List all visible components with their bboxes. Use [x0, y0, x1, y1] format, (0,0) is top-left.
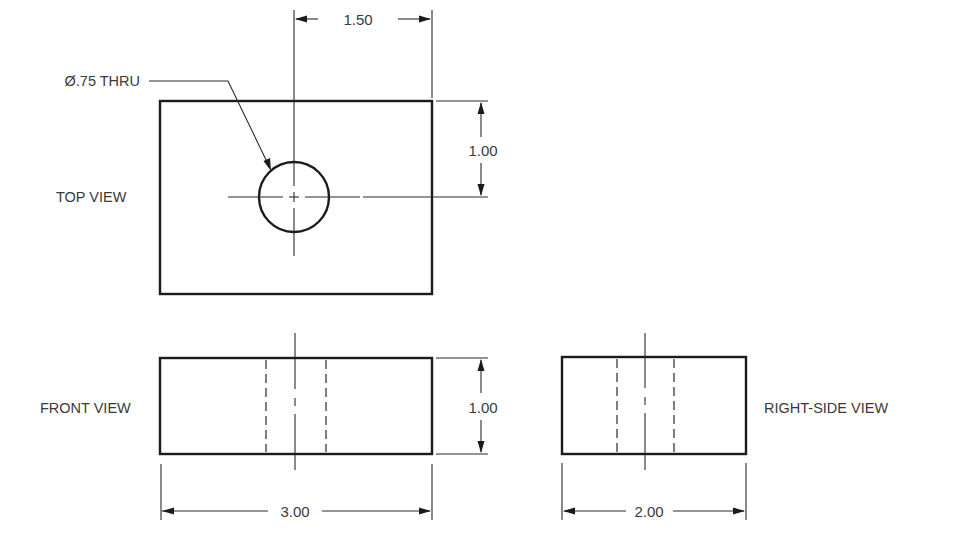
dimension-text-3-00: 3.00 [280, 503, 309, 520]
dimension-depth: 2.00 [563, 503, 745, 520]
leader-line [149, 81, 269, 166]
dimension-hole-location-x: 1.50 [295, 11, 431, 28]
arrowhead-left [295, 16, 307, 23]
front-view [160, 333, 488, 520]
dimension-text-1-50: 1.50 [343, 11, 372, 28]
right-side-view-label: RIGHT-SIDE VIEW [764, 400, 888, 416]
arrowhead-left [563, 508, 575, 515]
dimension-width: 3.00 [162, 503, 431, 520]
top-view-center-lines [228, 10, 360, 256]
arrowhead-down [478, 184, 485, 196]
arrowhead-right [419, 16, 431, 23]
top-view [160, 10, 488, 294]
arrowhead-down [478, 441, 485, 453]
hole-callout: Ø.75 THRU [65, 73, 271, 171]
orthographic-drawing: 1.50 1.00 Ø.75 THRU TOP VIEW 1.00 [0, 0, 953, 554]
right-side-view-outline [562, 357, 746, 454]
arrowhead-up [478, 359, 485, 371]
dimension-height: 1.00 [468, 359, 497, 453]
arrowhead-right [733, 508, 745, 515]
hole-callout-text: Ø.75 THRU [65, 73, 140, 89]
arrowhead-up [478, 102, 485, 114]
front-view-label: FRONT VIEW [40, 400, 131, 416]
right-side-view [562, 333, 746, 520]
dimension-text-1-00-top: 1.00 [468, 142, 497, 159]
dimension-hole-location-y: 1.00 [468, 102, 497, 196]
dimension-text-2-00: 2.00 [634, 503, 663, 520]
leader-arrowhead [264, 158, 272, 171]
top-view-label: TOP VIEW [56, 189, 127, 205]
dimension-text-1-00-front: 1.00 [468, 399, 497, 416]
front-view-outline [160, 358, 432, 454]
arrowhead-right [419, 508, 431, 515]
arrowhead-left [162, 508, 174, 515]
